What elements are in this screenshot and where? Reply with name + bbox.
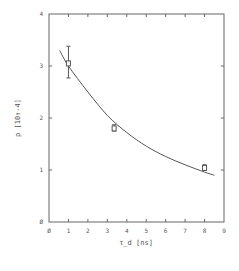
x-tick-label: 1 — [67, 227, 71, 234]
x-tick-label: Ø — [47, 227, 51, 234]
fit-curve — [60, 50, 215, 175]
y-tick-labels: Ø1234 — [39, 10, 43, 225]
x-tick-label: 8 — [203, 227, 207, 234]
square-marker — [203, 165, 207, 170]
chart-container: Ø123456789 Ø1234 τ_d [ns] p [10↑-4] — [0, 0, 239, 271]
x-tick-label: 4 — [125, 227, 129, 234]
x-tick-label: 6 — [164, 227, 168, 234]
x-tick-label: 9 — [222, 227, 226, 234]
plot-frame — [49, 14, 224, 222]
chart-svg: Ø123456789 Ø1234 τ_d [ns] p [10↑-4] — [0, 0, 239, 271]
y-tick-label: Ø — [39, 218, 43, 225]
y-tick-label: 4 — [39, 10, 43, 17]
y-tick-label: 2 — [39, 114, 43, 121]
y-tick-label: 1 — [39, 166, 43, 173]
data-points — [66, 46, 206, 170]
y-axis-label: p [10↑-4] — [14, 99, 22, 137]
x-tick-labels: Ø123456789 — [47, 227, 226, 234]
x-tick-label: 2 — [86, 227, 90, 234]
x-tick-label: 5 — [144, 227, 148, 234]
x-tick-label: 3 — [106, 227, 110, 234]
square-marker — [66, 61, 70, 66]
x-tick-label: 7 — [183, 227, 187, 234]
y-tick-label: 3 — [39, 62, 43, 69]
axis-ticks — [49, 14, 224, 222]
square-marker — [112, 126, 116, 131]
x-axis-label: τ_d [ns] — [119, 239, 153, 247]
